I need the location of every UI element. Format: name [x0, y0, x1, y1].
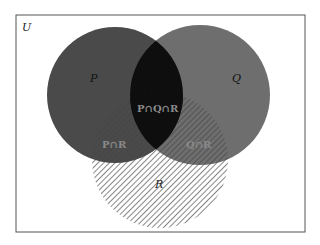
region-pr-label: P∩R [102, 139, 127, 150]
universe-label: U [22, 21, 32, 34]
set-q-label: Q [232, 72, 241, 85]
set-p-label: P [89, 72, 98, 85]
region-pqr-label: P∩Q∩R [137, 103, 179, 114]
set-r-label: R [154, 178, 163, 191]
venn-diagram: U P Q R P∩Q∩R P∩R Q∩R [0, 0, 320, 245]
region-qr-label: Q∩R [186, 139, 212, 150]
